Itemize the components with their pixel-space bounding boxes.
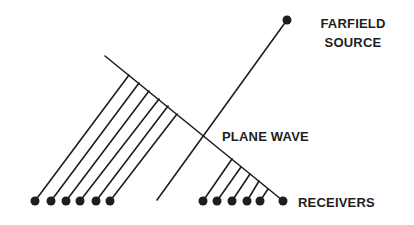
receiver-dot xyxy=(279,197,288,206)
receiver-dot xyxy=(228,197,237,206)
receiver-ray-line xyxy=(80,99,159,201)
receiver-ray-line xyxy=(110,114,177,201)
farfield-source-label: FARFIELD SOURCE xyxy=(313,14,393,52)
right-receiver-group xyxy=(199,159,288,206)
farfield-source-dot xyxy=(283,16,292,25)
receiver-dot xyxy=(47,197,56,206)
wavefront-line xyxy=(105,56,282,200)
receiver-dot xyxy=(62,197,71,206)
receiver-ray-line xyxy=(35,75,129,201)
source-dot xyxy=(283,16,292,25)
receiver-dot xyxy=(106,197,115,206)
receiver-ray-line xyxy=(66,91,149,201)
farfield-label-line2: SOURCE xyxy=(313,33,393,52)
receiver-dot xyxy=(213,197,222,206)
receiver-dot xyxy=(31,197,40,206)
receiver-dot xyxy=(256,197,265,206)
plane-wave-label: PLANE WAVE xyxy=(222,130,309,143)
receiver-dot xyxy=(199,197,208,206)
receiver-ray-line xyxy=(217,167,241,201)
receiver-dot xyxy=(243,197,252,206)
receiver-ray-line xyxy=(203,159,232,201)
receiver-dot xyxy=(76,197,85,206)
receivers-label: RECEIVERS xyxy=(298,196,375,209)
plane-wavefront-line xyxy=(105,56,282,200)
receiver-dot xyxy=(92,197,101,206)
left-receiver-group xyxy=(31,75,178,206)
receiver-ray-line xyxy=(96,106,168,201)
farfield-label-line1: FARFIELD xyxy=(313,14,393,33)
